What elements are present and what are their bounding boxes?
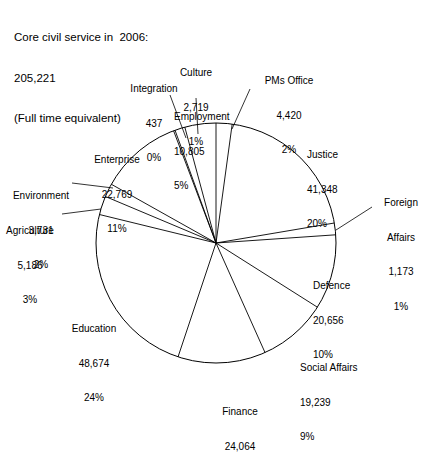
slice-label-justice: Justice 41,348 20% — [307, 126, 377, 253]
slice-label-social-affairs: Social Affairs 19,239 9% — [300, 339, 380, 456]
slice-label-employment: Employment 10,805 5% — [174, 88, 248, 215]
slice-label-environment: Environment 3,731 2% — [6, 167, 76, 294]
slice-label-finance: Finance 24,064 — [205, 383, 275, 456]
slice-label-education: Education 48,674 24% — [58, 300, 130, 427]
